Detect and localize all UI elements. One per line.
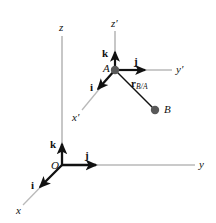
y-prime-axis-label: y′ <box>176 64 183 75</box>
i-unit-vector-label: i <box>31 180 34 191</box>
x-prime-mark: ′ <box>77 111 79 123</box>
k-unit-vector-label: k <box>50 139 56 150</box>
j-unit-vector-label: j <box>85 150 89 161</box>
point-a-label: A <box>103 63 110 74</box>
z-prime-mark: ′ <box>115 17 117 29</box>
k-prime-unit-vector-label: k <box>102 48 108 59</box>
relative-position-vector-label: rB/A <box>131 78 148 90</box>
j-prime-unit-vector-label: j <box>134 56 138 67</box>
point-a-node <box>111 66 119 74</box>
y-prime-mark: ′ <box>181 63 183 75</box>
z-prime-axis-label: z′ <box>111 18 118 29</box>
z-axis-label: z <box>59 22 63 33</box>
r-subscript: B/A <box>136 82 148 91</box>
x-axis-label: x <box>16 205 21 216</box>
point-b-node <box>151 106 159 114</box>
y-axis-label: y <box>199 159 204 170</box>
point-b-label: B <box>164 104 171 115</box>
origin-o-label: O <box>51 160 59 171</box>
physics-vector-diagram: z y x O k j i z′ y′ x′ k j i A B rB/A <box>0 0 216 223</box>
x-prime-axis-label: x′ <box>72 112 79 123</box>
i-prime-unit-vector-label: i <box>90 82 93 93</box>
